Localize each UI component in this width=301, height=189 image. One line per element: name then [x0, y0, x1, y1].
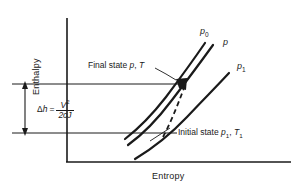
- final-state-leader-line: [155, 68, 176, 80]
- initial-state-prefix: Initial state: [178, 127, 221, 137]
- delta-h-arrowhead-up: [22, 81, 28, 89]
- initial-state-annotation: Initial state p1, T1: [178, 128, 243, 139]
- enthalpy-symbol: h: [43, 104, 48, 114]
- delta-h-formula-lhs: Δh: [37, 104, 47, 114]
- velocity-head-fraction: V2 2cJ: [56, 99, 73, 120]
- delta-h-arrowhead-down: [22, 128, 28, 136]
- fraction-denominator: 2cJ: [56, 110, 73, 120]
- curve-p0: [125, 43, 205, 139]
- final-state-var-t: T: [139, 60, 144, 70]
- initial-state-var-t-sub: 1: [239, 132, 242, 139]
- delta-h-formula: Δh = V2 2cJ: [37, 99, 74, 120]
- initial-state-leader-line: [150, 128, 170, 141]
- curve-label-p1: p1: [237, 62, 246, 73]
- y-axis-label: Enthalpy: [32, 58, 41, 95]
- fraction-numerator: V2: [59, 99, 72, 110]
- enthalpy-entropy-diagram: Enthalpy Entropy p0 p p1 Final state p, …: [0, 0, 301, 189]
- curve-label-p1-sub: 1: [242, 66, 246, 73]
- final-state-annotation: Final state p, T: [88, 61, 144, 70]
- curve-label-p0-sub: 0: [205, 31, 209, 38]
- diagram-canvas: [0, 0, 301, 189]
- velocity-exponent: 2: [66, 99, 69, 105]
- curve-label-p0: p0: [200, 27, 209, 38]
- equals-sign: =: [49, 104, 54, 114]
- final-state-prefix: Final state: [88, 60, 130, 70]
- x-axis-label: Entropy: [152, 172, 184, 181]
- curve-label-p-base: p: [223, 37, 228, 47]
- curve-label-p: p: [223, 38, 228, 47]
- delta-h-dimension-arrow: [22, 81, 28, 136]
